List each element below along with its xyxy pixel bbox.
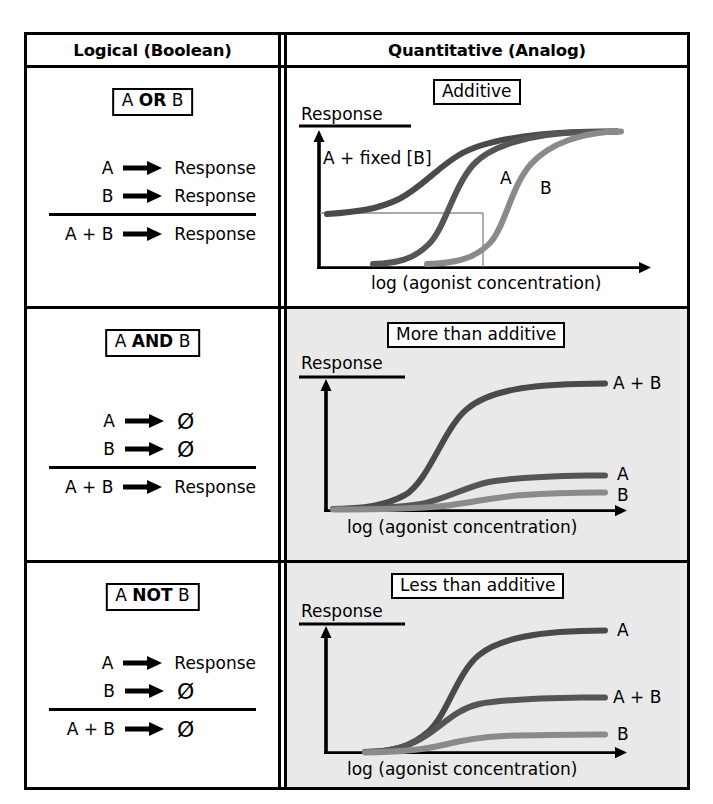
chart-cell-additive: Additive Response A + fixed [B] (287, 68, 687, 306)
logic-lhs: B (49, 186, 121, 206)
operator-box-or: A OR B (112, 88, 194, 116)
x-axis-label: log (agonist concentration) (347, 759, 577, 779)
y-axis-label: Response (301, 601, 383, 621)
curve-label: A (617, 620, 629, 640)
y-axis-label: Response (301, 353, 383, 373)
curve-label: A (617, 464, 629, 484)
figure-frame: Logical (Boolean) Quantitative (Analog) … (24, 32, 690, 790)
operator-box-and: A AND B (105, 329, 201, 357)
operator-keyword: OR (139, 90, 167, 110)
logic-equations-and: A Ø B Ø A + B (49, 407, 256, 501)
logic-equations-or: A Response B Response A + B (49, 154, 256, 248)
logic-line: B Response (49, 182, 256, 210)
logic-line: A Response (49, 154, 256, 182)
logic-rhs: Response (164, 186, 256, 206)
operator-left: A (115, 331, 127, 351)
right-arrow-icon (121, 226, 164, 242)
right-arrow-icon (121, 160, 164, 176)
chart-cell-more-than-additive: More than additive Response A + B A B l (287, 309, 687, 560)
chart-additive: Additive Response A + fixed [B] (287, 68, 687, 306)
logic-lhs: A + B (49, 719, 123, 739)
logic-rhs: Response (164, 653, 256, 673)
right-arrow-icon (123, 441, 167, 457)
table-row: A AND B A Ø B Ø (27, 306, 687, 560)
operator-right: B (178, 585, 190, 605)
logic-lhs: A + B (49, 477, 121, 497)
operator-left: A (115, 585, 127, 605)
logic-lhs: A (49, 158, 121, 178)
logic-lhs: B (49, 439, 123, 459)
right-arrow-icon (123, 721, 167, 737)
logic-lhs: A (49, 411, 123, 431)
logic-lhs: A (49, 653, 121, 673)
curve-label: B (617, 724, 629, 744)
logic-cell-and: A AND B A Ø B Ø (27, 309, 278, 560)
logic-lhs: B (49, 681, 123, 701)
panel-title: Additive (433, 79, 521, 105)
curve-label: A (500, 168, 512, 188)
curve-label: B (617, 485, 629, 505)
logic-sum-line: A + B Response (49, 473, 256, 501)
right-arrow-icon (121, 188, 164, 204)
logic-sum-rule (49, 213, 256, 216)
chart-less-than-additive: Less than additive Response A A + B B l (287, 563, 687, 787)
logic-rhs-null: Ø (167, 439, 256, 461)
table-row: A NOT B A Response B Ø (27, 560, 687, 787)
table-header-row: Logical (Boolean) Quantitative (Analog) (27, 35, 687, 68)
operator-left: A (122, 90, 134, 110)
operator-keyword: NOT (132, 585, 172, 605)
logic-sum-line: A + B Ø (49, 715, 256, 743)
chart-note-a-plus-fixed-b: A + fixed [B] (323, 148, 432, 168)
panel-title: Less than additive (391, 573, 564, 599)
logic-sum-line: A + B Response (49, 220, 256, 248)
logic-sum-rule (49, 466, 256, 469)
x-axis-label: log (agonist concentration) (347, 517, 577, 537)
curve-label: A + B (613, 373, 661, 393)
operator-keyword: AND (132, 331, 174, 351)
logic-lhs: A + B (49, 224, 121, 244)
column-header-quantitative: Quantitative (Analog) (287, 35, 687, 65)
right-arrow-icon (121, 655, 164, 671)
logic-line: A Ø (49, 407, 256, 435)
logic-rhs-null: Ø (167, 719, 256, 741)
table-row: A OR B A Response B Response (27, 68, 687, 306)
chart-cell-less-than-additive: Less than additive Response A A + B B l (287, 563, 687, 787)
logic-cell-or: A OR B A Response B Response (27, 68, 278, 306)
column-header-logical: Logical (Boolean) (27, 35, 278, 65)
logic-line: A Response (49, 649, 256, 677)
logic-rhs-null: Ø (167, 681, 256, 703)
logic-equations-not: A Response B Ø A + B (49, 649, 256, 743)
panel-title: More than additive (387, 322, 565, 348)
curve-label: A + B (613, 687, 661, 707)
logic-rhs: Response (164, 158, 256, 178)
curve-label: B (540, 178, 552, 198)
right-arrow-icon (123, 413, 167, 429)
operator-right: B (179, 331, 191, 351)
logic-line: B Ø (49, 677, 256, 705)
chart-more-than-additive: More than additive Response A + B A B l (287, 309, 687, 560)
right-arrow-icon (123, 683, 167, 699)
logic-sum-rule (49, 708, 256, 711)
logic-rhs: Response (164, 224, 256, 244)
y-axis-label: Response (301, 104, 383, 124)
right-arrow-icon (121, 479, 164, 495)
logic-rhs-null: Ø (167, 411, 256, 433)
logic-line: B Ø (49, 435, 256, 463)
operator-right: B (172, 90, 184, 110)
logic-cell-not: A NOT B A Response B Ø (27, 563, 278, 787)
logic-rhs: Response (164, 477, 256, 497)
operator-box-not: A NOT B (105, 583, 199, 611)
x-axis-label: log (agonist concentration) (371, 273, 601, 293)
